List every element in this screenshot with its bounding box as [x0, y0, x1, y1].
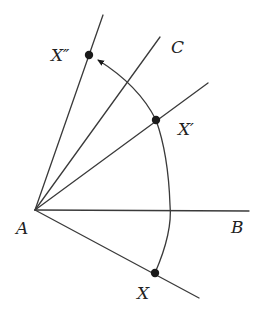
- point-x: [151, 269, 159, 277]
- label-x: X: [135, 283, 150, 303]
- rotation-arc: [98, 60, 170, 273]
- ray-ax: [35, 210, 199, 298]
- label-x-double-prime: X″: [49, 45, 70, 65]
- ray-ax-prime: [35, 83, 208, 210]
- label-c: C: [171, 37, 184, 57]
- label-b: B: [230, 217, 244, 237]
- ray-ab: [35, 210, 249, 211]
- label-a: A: [14, 218, 28, 238]
- rotation-diagram: A B C X X′ X″: [0, 0, 269, 320]
- point-x-prime: [152, 116, 160, 124]
- point-x-double-prime: [85, 51, 93, 59]
- label-x-prime: X′: [176, 119, 194, 139]
